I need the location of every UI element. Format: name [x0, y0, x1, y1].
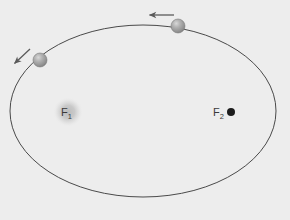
figure-background — [0, 0, 290, 220]
focus-1-subscript: 1 — [68, 112, 72, 121]
focus-2-subscript: 2 — [220, 112, 224, 121]
orbiting-body-left — [33, 53, 47, 67]
orbit-diagram-figure: F1 F2 — [0, 0, 290, 220]
orbit-diagram-canvas: F1 F2 — [0, 0, 290, 220]
orbiting-body-top — [171, 19, 185, 33]
focus-2-dot-icon — [227, 108, 235, 116]
